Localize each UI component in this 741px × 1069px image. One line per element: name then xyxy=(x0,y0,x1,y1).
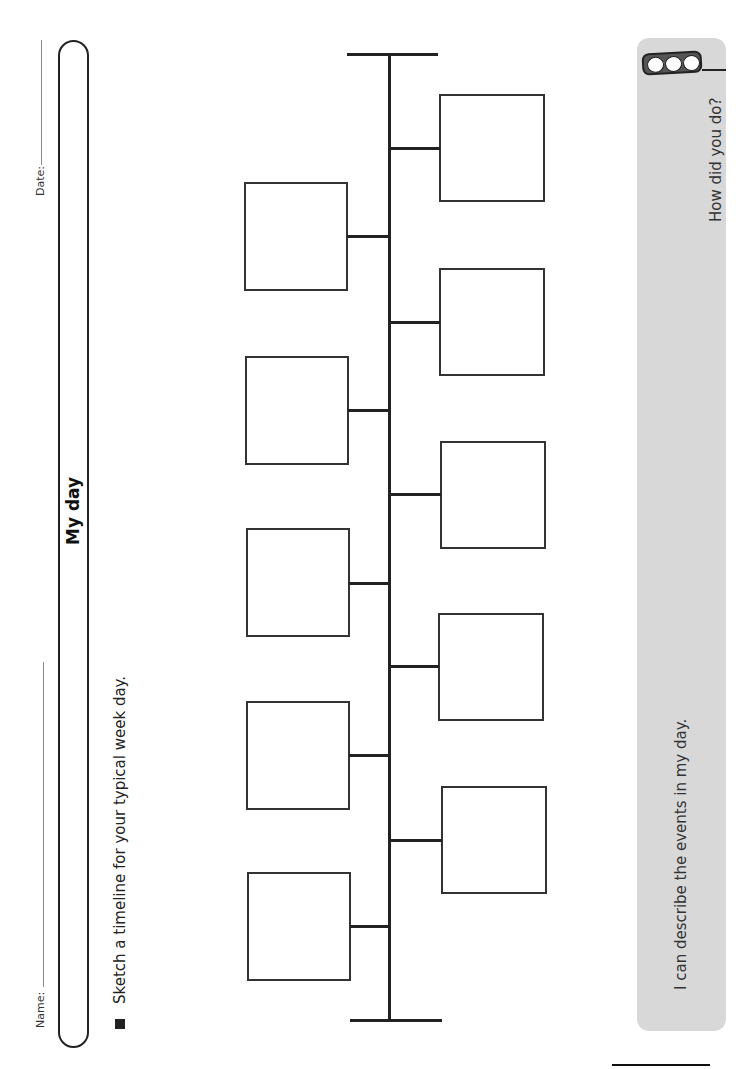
instruction-text: Sketch a timeline for your typical week … xyxy=(111,676,129,1004)
timeline-connector-right-4 xyxy=(390,665,439,668)
traffic-light-left-icon[interactable] xyxy=(647,56,665,73)
timeline-connector-left-5 xyxy=(350,925,391,928)
traffic-light-middle-icon[interactable] xyxy=(665,55,683,72)
footer-rule xyxy=(612,1064,710,1066)
timeline-box-left-5[interactable] xyxy=(247,872,351,981)
traffic-light-icon[interactable] xyxy=(641,50,702,75)
page-title: My day xyxy=(63,477,83,545)
timeline-box-right-2[interactable] xyxy=(439,268,545,376)
traffic-light-right-icon[interactable] xyxy=(683,55,701,72)
timeline-connector-left-1 xyxy=(347,235,389,238)
timeline-connector-right-5 xyxy=(391,839,442,842)
timeline-connector-left-3 xyxy=(349,582,390,585)
bullet-icon xyxy=(115,1019,125,1029)
timeline-connector-right-1 xyxy=(390,147,440,150)
timeline-connector-left-4 xyxy=(349,754,390,757)
timeline-top-cap xyxy=(347,53,438,56)
timeline-connector-left-2 xyxy=(348,409,389,412)
timeline-box-left-3[interactable] xyxy=(246,528,350,637)
traffic-light-pole xyxy=(702,69,726,71)
name-label: Name: xyxy=(34,992,47,1028)
date-label: Date: xyxy=(34,166,47,196)
timeline-bottom-cap xyxy=(350,1019,442,1022)
date-line[interactable] xyxy=(41,40,42,165)
name-line[interactable] xyxy=(43,662,44,987)
timeline-box-left-2[interactable] xyxy=(245,356,349,465)
timeline-box-left-4[interactable] xyxy=(246,701,350,810)
timeline-box-right-5[interactable] xyxy=(441,786,547,894)
timeline-box-left-1[interactable] xyxy=(244,182,348,291)
timeline-spine xyxy=(388,54,391,1021)
how-did-you-do-prompt: How did you do? xyxy=(707,98,725,222)
learning-statement: I can describe the events in my day. xyxy=(672,719,690,990)
timeline-connector-right-3 xyxy=(390,493,441,496)
timeline-connector-right-2 xyxy=(390,321,440,324)
timeline-box-right-1[interactable] xyxy=(439,94,545,202)
timeline-box-right-3[interactable] xyxy=(440,441,546,549)
timeline-box-right-4[interactable] xyxy=(438,613,544,721)
